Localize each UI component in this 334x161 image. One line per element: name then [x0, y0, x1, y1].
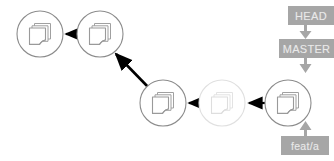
master-branch-label[interactable]: MASTER [279, 39, 334, 58]
master-to-commit-arrow-icon [300, 58, 312, 73]
document-stack-icon-faded [212, 93, 233, 114]
document-stack-icon [90, 24, 111, 45]
document-stack-icon [153, 93, 174, 114]
document-stack-icon [278, 93, 299, 114]
head-to-master-arrow-icon [300, 25, 312, 39]
document-stack-icon [30, 24, 51, 45]
head-pointer-label[interactable]: HEAD [288, 6, 334, 25]
commit-node-2[interactable] [77, 11, 123, 57]
commit-node-head[interactable] [265, 80, 311, 126]
commit-node-1[interactable] [17, 11, 63, 57]
commit-node-3[interactable] [140, 80, 186, 126]
edge-commit3-to-commit2 [116, 54, 150, 89]
feata-branch-label[interactable]: feat/a [281, 136, 329, 155]
feata-to-commit-arrow-icon [300, 121, 312, 136]
commit-node-ghost[interactable] [199, 80, 245, 126]
